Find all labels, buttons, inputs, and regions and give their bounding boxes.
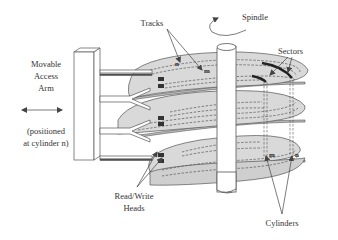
movable-access-arm [74, 48, 152, 161]
positioned-label-line2: at cylinder n) [23, 138, 68, 148]
positioned-label: (positioned at cylinder n) [23, 126, 68, 148]
spindle-label: Spindle [242, 12, 268, 22]
arm-label-line1: Movable [31, 59, 61, 69]
arm-label-line2: Access [34, 71, 58, 81]
heads-label-line1: Read/Write [115, 191, 154, 201]
sectors-label: Sectors [278, 46, 303, 56]
rotation-arrow [210, 18, 246, 36]
heads-label-line2: Heads [123, 203, 144, 213]
positioned-label-line1: (positioned [27, 126, 66, 136]
arm-label-line3: Arm [38, 83, 54, 93]
arm-label: Movable Access Arm [31, 59, 61, 93]
spindle [217, 44, 236, 194]
cylinder-n-marker: n [295, 151, 299, 159]
disk-diagram: Movable Access Arm (positioned at cylind… [0, 0, 338, 240]
tracks-label: Tracks [141, 18, 164, 28]
cylinder-m-marker: m [269, 151, 275, 159]
track-n-marker: n [175, 60, 179, 68]
track-m-marker: m [204, 67, 210, 75]
cylinders-label: Cylinders [265, 218, 298, 228]
